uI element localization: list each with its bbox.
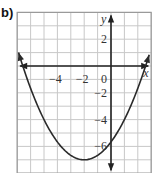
y-tick-label: −6	[94, 139, 107, 153]
y-axis-up-arrow-icon	[108, 14, 114, 22]
y-tick-label: −2	[94, 86, 107, 100]
x-tick-label: 0	[101, 72, 107, 86]
curve-left-arrow-icon	[18, 53, 24, 62]
y-axis-label: y	[100, 12, 107, 26]
y-tick-label: 2	[101, 32, 107, 46]
y-tick-label: −4	[94, 113, 107, 127]
x-tick-label: −2	[76, 72, 89, 86]
curve-right-arrow-icon	[144, 55, 150, 64]
y-axis-down-arrow-icon	[108, 163, 114, 171]
grid	[17, 12, 151, 173]
tick-labels: −4−202−2−4−6yx	[49, 12, 149, 153]
x-tick-label: −4	[49, 72, 62, 86]
parabola-graph: −4−202−2−4−6yx	[0, 0, 155, 173]
